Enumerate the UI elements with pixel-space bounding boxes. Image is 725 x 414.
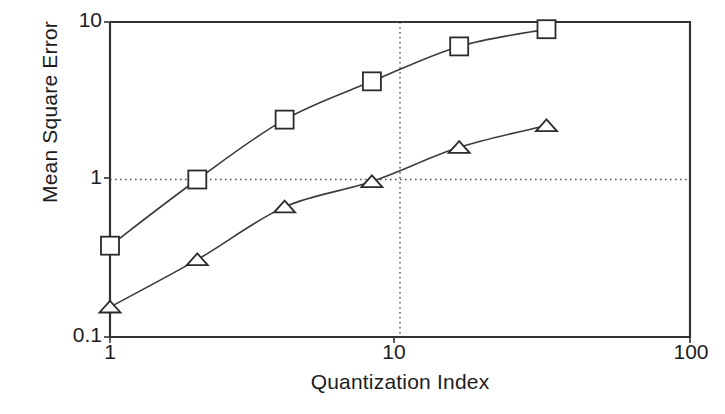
series-layer: [100, 20, 557, 312]
data-point-square: [276, 111, 294, 129]
plot-canvas: [0, 0, 725, 414]
data-point-square: [450, 37, 468, 55]
data-point-square: [188, 171, 206, 189]
series-line-triangle: [110, 126, 546, 307]
series-triangle-series: [100, 119, 557, 312]
data-point-square: [101, 237, 119, 255]
data-point-triangle: [361, 175, 382, 187]
series-line-square: [110, 29, 546, 245]
data-point-square: [363, 72, 381, 90]
data-point-triangle: [274, 201, 295, 213]
series-square-series: [101, 20, 555, 254]
data-point-triangle: [449, 141, 470, 153]
data-point-square: [537, 20, 555, 38]
chart-figure: Mean Square Error Quantization Index 10 …: [0, 0, 725, 414]
data-point-triangle: [536, 119, 557, 131]
